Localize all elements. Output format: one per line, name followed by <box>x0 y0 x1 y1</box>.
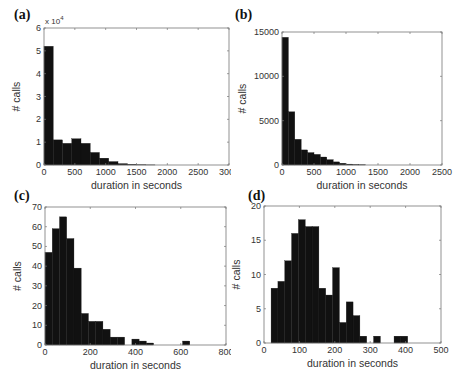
y-tick-label: 1 <box>36 137 41 147</box>
histogram-bar <box>374 336 381 343</box>
histogram-bar <box>90 152 99 165</box>
x-tick-label: 600 <box>173 347 188 357</box>
x-tick-label: 0 <box>42 347 47 357</box>
histogram-bar <box>298 220 305 343</box>
histogram-bar <box>117 337 124 345</box>
x-axis-label: duration in seconds <box>91 179 182 191</box>
y-axis-label: # calls <box>236 84 248 114</box>
histogram-bar <box>288 112 294 165</box>
histogram-bar <box>314 154 320 165</box>
x-tick-label: 0 <box>279 167 284 177</box>
histogram-bar <box>59 217 66 345</box>
histogram-bar <box>301 150 307 165</box>
y-tick-label: 0 <box>274 160 279 170</box>
histogram-a: 0500100015002000250030000123456duration … <box>0 0 231 193</box>
panel-label-d: (d) <box>248 188 265 204</box>
y-tick-label: 6 <box>36 23 41 33</box>
histogram-bar <box>109 162 118 165</box>
y-tick-label: 70 <box>32 202 42 212</box>
histogram-bar <box>183 341 190 345</box>
histogram-bar <box>320 157 326 165</box>
y-tick-label: 10 <box>251 270 261 280</box>
x-tick-label: 1000 <box>336 167 356 177</box>
x-tick-label: 800 <box>218 347 231 357</box>
x-tick-label: 300 <box>363 345 378 355</box>
histogram-bar <box>278 281 285 343</box>
y-axis-label: # calls <box>11 261 23 291</box>
chart-panel-d: 010020030040050005101520duration in seco… <box>231 193 462 386</box>
histogram-bar <box>63 143 72 165</box>
x-tick-label: 500 <box>306 167 321 177</box>
y-tick-label: 3 <box>36 92 41 102</box>
histogram-bar <box>312 227 319 343</box>
histogram-bar <box>339 322 346 343</box>
panel-label-b: (b) <box>235 7 252 23</box>
histogram-bar <box>44 46 53 165</box>
x-tick-label: 400 <box>398 345 413 355</box>
histogram-bar <box>103 329 110 345</box>
x-tick-label: 2000 <box>157 167 177 177</box>
histogram-bar <box>271 288 278 343</box>
y-axis-label: # calls <box>10 82 22 112</box>
histogram-bar <box>319 288 326 343</box>
histogram-bar <box>88 321 95 345</box>
y-tick-label: 5 <box>256 304 261 314</box>
histogram-bar <box>305 227 312 343</box>
histogram-d: 010020030040050005101520duration in seco… <box>231 193 462 386</box>
axes-frame <box>282 32 442 165</box>
histogram-bar <box>333 162 339 165</box>
histogram-bar <box>353 316 360 343</box>
y-tick-label: 10000 <box>254 71 279 81</box>
histogram-c: 0200400600800010203040506070duration in … <box>0 193 231 386</box>
chart-panel-a: 0500100015002000250030000123456duration … <box>0 0 231 193</box>
histogram-bar <box>81 143 90 165</box>
histogram-bar <box>308 153 314 165</box>
y-tick-label: 15000 <box>254 27 279 37</box>
x-tick-label: 200 <box>83 347 98 357</box>
histogram-bar <box>100 158 109 165</box>
x-tick-label: 0 <box>41 167 46 177</box>
x-tick-label: 1500 <box>368 167 388 177</box>
x-tick-label: 3000 <box>219 167 231 177</box>
histogram-bar <box>295 139 301 165</box>
histogram-bar <box>401 336 408 343</box>
panel-label-c: (c) <box>14 188 30 204</box>
x-tick-label: 400 <box>128 347 143 357</box>
y-tick-label: 0 <box>37 340 42 350</box>
y-tick-label: 0 <box>36 160 41 170</box>
histogram-bar <box>96 321 103 345</box>
y-tick-label: 40 <box>32 261 42 271</box>
histogram-bar <box>139 341 146 345</box>
x-tick-label: 0 <box>261 345 266 355</box>
y-tick-label: 2 <box>36 114 41 124</box>
chart-panel-b: 05001000150020002500050001000015000durat… <box>231 0 462 193</box>
x-tick-label: 1500 <box>126 167 146 177</box>
histogram-bar <box>52 229 59 345</box>
histogram-b: 05001000150020002500050001000015000durat… <box>231 0 462 193</box>
histogram-bar <box>327 160 333 165</box>
histogram-bar <box>285 261 292 343</box>
y-tick-label: 10 <box>32 320 42 330</box>
y-axis-label: # calls <box>231 260 242 290</box>
x-tick-label: 2500 <box>432 167 452 177</box>
x-axis-label: duration in seconds <box>316 179 407 191</box>
chart-panel-c: 0200400600800010203040506070duration in … <box>0 193 231 386</box>
histogram-bar <box>72 139 81 165</box>
histogram-bar <box>74 268 81 345</box>
y-tick-label: 20 <box>32 301 42 311</box>
y-tick-label: 50 <box>32 241 42 251</box>
x-axis-label: duration in seconds <box>90 359 181 371</box>
y-tick-label: 5 <box>36 46 41 56</box>
histogram-bar <box>333 268 340 343</box>
histogram-bar <box>394 336 401 343</box>
histogram-bar <box>282 37 288 165</box>
y-multiplier: x 104 <box>45 15 64 26</box>
x-axis-label: duration in seconds <box>307 357 398 369</box>
y-tick-label: 30 <box>32 281 42 291</box>
x-tick-label: 500 <box>433 345 448 355</box>
histogram-bar <box>81 313 88 345</box>
histogram-bar <box>67 239 74 345</box>
histogram-bar <box>346 302 353 343</box>
panel-label-a: (a) <box>14 7 30 23</box>
x-tick-label: 500 <box>67 167 82 177</box>
